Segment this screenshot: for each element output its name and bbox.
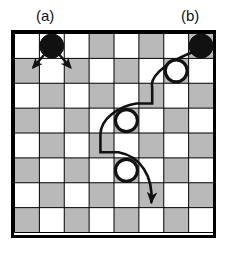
white-piece-1: [165, 60, 187, 82]
white-piece-2: [115, 110, 137, 132]
checkers-figure: (a) (b): [0, 0, 231, 253]
panel-label-b: (b): [181, 8, 199, 23]
panel-label-a: (a): [36, 8, 54, 23]
simple-move-arrow-left: [33, 53, 46, 68]
black-piece-b: [189, 34, 213, 58]
white-piece-3: [115, 159, 137, 181]
pieces-and-moves-layer: [11, 30, 216, 238]
checkerboard: [11, 30, 216, 238]
board-pieces: [40, 34, 213, 181]
simple-move-arrow-right: [58, 53, 71, 68]
